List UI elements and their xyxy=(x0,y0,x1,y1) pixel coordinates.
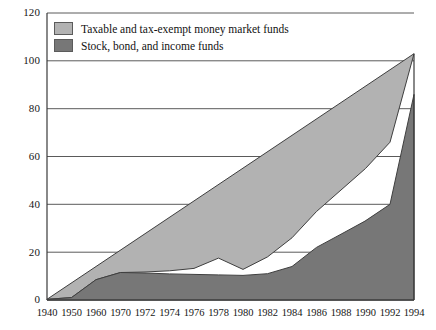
stacked-area-chart: 120 100 80 60 40 20 0 1940 1950 1960 197… xyxy=(0,0,436,330)
legend-label-money-market: Taxable and tax-exempt money market fund… xyxy=(81,23,289,35)
y-tick-100: 100 xyxy=(8,54,40,66)
y-tick-80: 80 xyxy=(8,102,40,114)
legend-swatch-stock-bond-income xyxy=(54,39,73,52)
legend-item-money-market: Taxable and tax-exempt money market fund… xyxy=(54,21,289,36)
legend-item-stock-bond-income: Stock, bond, and income funds xyxy=(54,38,289,53)
legend-swatch-money-market xyxy=(54,22,73,35)
y-tick-20: 20 xyxy=(8,246,40,258)
chart-legend: Taxable and tax-exempt money market fund… xyxy=(54,21,289,55)
y-tick-40: 40 xyxy=(8,198,40,210)
y-tick-120: 120 xyxy=(8,6,40,18)
x-tick-1994: 1994 xyxy=(391,307,436,318)
y-tick-0: 0 xyxy=(8,293,40,305)
legend-label-stock-bond-income: Stock, bond, and income funds xyxy=(81,40,223,52)
y-tick-60: 60 xyxy=(8,150,40,162)
